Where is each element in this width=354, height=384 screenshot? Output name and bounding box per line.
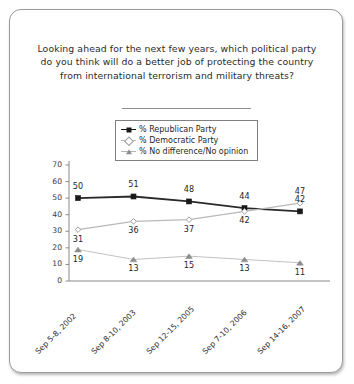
data-point-label: 51: [121, 179, 147, 189]
data-point-marker: [131, 219, 137, 225]
y-axis-tick-label: 30: [44, 226, 62, 235]
data-point-marker: [75, 227, 81, 233]
data-point-label: 13: [121, 263, 147, 273]
data-point-label: 31: [65, 234, 91, 244]
data-point-label: 47: [287, 186, 313, 196]
data-point-label: 13: [232, 263, 258, 273]
plot-area: 0102030405060705051484442313637424719131…: [10, 10, 342, 372]
data-point-label: 15: [176, 260, 202, 270]
y-axis-tick-label: 60: [44, 177, 62, 186]
y-axis-tick-label: 50: [44, 193, 62, 202]
data-point-label: 50: [65, 181, 91, 191]
y-axis-tick-label: 0: [44, 276, 62, 285]
data-point-label: 37: [176, 224, 202, 234]
data-point-label: 48: [176, 184, 202, 194]
y-axis-tick-label: 40: [44, 210, 62, 219]
chart-card-inner: Looking ahead for the next few years, wh…: [10, 10, 342, 372]
data-point-label: 11: [287, 267, 313, 277]
y-axis-tick-label: 70: [44, 160, 62, 169]
data-point-marker: [76, 196, 81, 201]
data-point-marker: [298, 209, 303, 214]
data-point-label: 36: [121, 225, 147, 235]
data-point-label: 44: [232, 191, 258, 201]
data-point-label: 42: [232, 215, 258, 225]
y-axis-tick-label: 10: [44, 259, 62, 268]
data-point-marker: [131, 194, 136, 199]
data-point-marker: [186, 217, 192, 223]
chart-card: Looking ahead for the next few years, wh…: [9, 9, 343, 373]
y-axis-tick-label: 20: [44, 243, 62, 252]
data-point-label: 19: [65, 254, 91, 264]
data-point-marker: [187, 199, 192, 204]
